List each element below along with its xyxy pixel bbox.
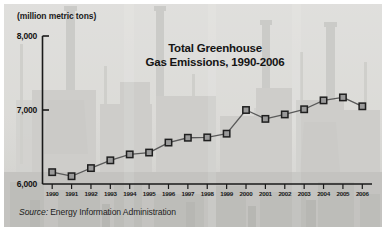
data-point-marker — [320, 97, 326, 103]
source-note: Source: Energy Information Administratio… — [19, 207, 176, 217]
x-axis-tick-label: 2006 — [351, 190, 373, 197]
data-point-marker — [282, 111, 288, 117]
data-point-marker — [185, 135, 191, 141]
data-point-marker — [49, 169, 55, 175]
source-prefix: Source: — [19, 207, 48, 217]
data-point-marker — [223, 130, 229, 136]
data-point-marker — [301, 106, 307, 112]
data-point-marker — [107, 157, 113, 163]
data-point-marker — [165, 139, 171, 145]
emissions-markers — [49, 94, 366, 179]
chart-axes — [43, 36, 373, 184]
greenhouse-gas-chart-figure: (million metric tons) Total Greenhouse G… — [0, 0, 386, 236]
chart-plot-overlay — [0, 0, 386, 236]
y-axis-tick-label: 8,000 — [3, 31, 37, 41]
y-axis-tick-label: 7,000 — [3, 105, 37, 115]
data-point-marker — [68, 173, 74, 179]
data-point-marker — [243, 107, 249, 113]
data-point-marker — [359, 103, 365, 109]
data-point-marker — [127, 151, 133, 157]
data-point-marker — [262, 116, 268, 122]
source-text: Energy Information Administration — [50, 207, 176, 217]
chart-svg — [0, 0, 386, 236]
data-point-marker — [88, 165, 94, 171]
data-point-marker — [146, 149, 152, 155]
emissions-series — [49, 94, 366, 179]
y-axis-tick-label: 6,000 — [3, 179, 37, 189]
data-point-marker — [204, 134, 210, 140]
data-point-marker — [340, 94, 346, 100]
